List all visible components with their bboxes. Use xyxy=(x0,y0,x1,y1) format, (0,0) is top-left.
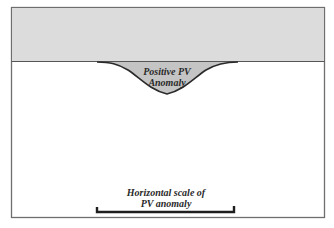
scale-label-line1: Horizontal scale of xyxy=(126,187,207,198)
anomaly-label-line2: Anomaly xyxy=(147,77,186,88)
stratosphere-region xyxy=(12,8,324,61)
anomaly-label-line1: Positive PV xyxy=(143,66,192,77)
scale-label-line2: PV anomaly xyxy=(141,198,192,209)
pv-anomaly-diagram: Positive PV Anomaly Horizontal scale of … xyxy=(0,0,334,228)
